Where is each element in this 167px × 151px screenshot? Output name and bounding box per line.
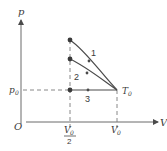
origin-label: O [14, 121, 22, 132]
pv-diagram: p V O p 0 V 0 2 V 0 T 0 1 2 3 [0, 0, 167, 151]
x-axis-label: V [160, 117, 167, 128]
state-3-point [68, 88, 73, 93]
process-3-arrow-icon [87, 89, 90, 92]
y-axis-label: p [18, 6, 25, 17]
state-t0-sub: 0 [128, 90, 132, 97]
state-1-point [68, 38, 73, 43]
p0-sub: 0 [15, 89, 19, 96]
v-half-den: 2 [67, 137, 72, 146]
process-2-arrow-icon [86, 72, 89, 75]
state-2-point [68, 57, 73, 62]
v-half-sub: 0 [70, 129, 74, 136]
process-3-label: 3 [85, 94, 90, 104]
v0-sub: 0 [117, 129, 121, 136]
process-1-label: 1 [91, 48, 96, 58]
process-2-label: 2 [74, 72, 79, 82]
process-1-arrow-icon [88, 60, 91, 63]
